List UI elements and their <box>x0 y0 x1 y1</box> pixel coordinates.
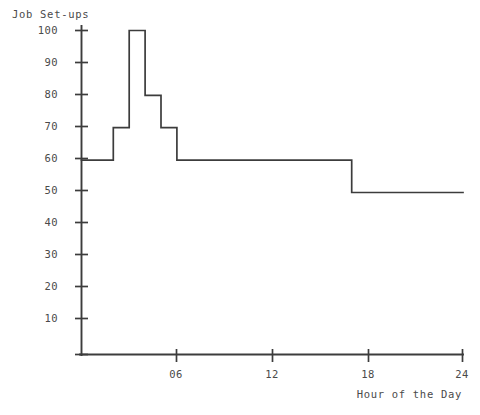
x-tick-label-12: 12 <box>265 368 278 380</box>
y-tick-label-50: 50 <box>45 184 58 196</box>
x-tick-label-06: 06 <box>169 368 182 380</box>
y-tick-label-20: 20 <box>45 280 58 292</box>
y-tick-label-40: 40 <box>45 216 58 228</box>
y-tick-label-100: 100 <box>38 24 58 36</box>
x-tick-label-24: 24 <box>455 368 468 380</box>
y-tick-label-80: 80 <box>45 88 58 100</box>
x-axis-ticks <box>177 349 463 362</box>
y-axis-label: Job Set-ups <box>12 8 89 20</box>
y-tick-label-10: 10 <box>45 312 58 324</box>
y-tick-label-60: 60 <box>45 152 58 164</box>
y-tick-label-90: 90 <box>45 56 58 68</box>
data-step-line <box>82 31 464 193</box>
y-tick-label-30: 30 <box>45 248 58 260</box>
y-tick-label-70: 70 <box>45 120 58 132</box>
x-tick-label-18: 18 <box>361 368 374 380</box>
x-axis-label: Hour of the Day <box>357 388 462 400</box>
step-chart: 100 90 80 70 60 50 40 30 20 10 06 12 18 … <box>0 0 480 415</box>
chart-page: 100 90 80 70 60 50 40 30 20 10 06 12 18 … <box>0 0 480 415</box>
